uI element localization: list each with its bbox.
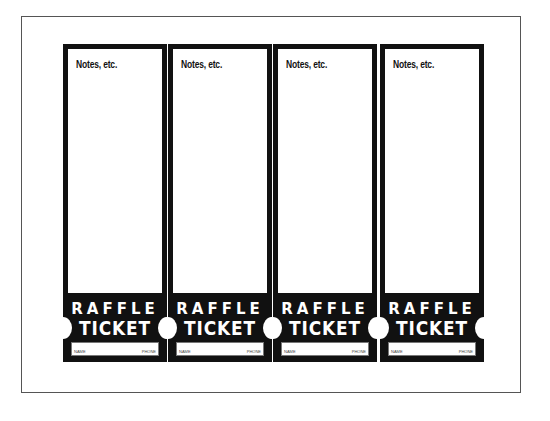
field-label-name: NAME <box>391 349 403 354</box>
field-label-phone: PHONE <box>142 349 156 354</box>
notes-box: Notes, etc. <box>273 44 377 298</box>
ticket-stub: RAFFLE TICKET NAME PHONE <box>168 297 272 362</box>
name-phone-field: NAME PHONE <box>281 342 369 356</box>
field-label-phone: PHONE <box>352 349 366 354</box>
raffle-ticket-4: Notes, etc. RAFFLE TICKET NAME PHONE <box>380 44 484 362</box>
notch-left <box>264 317 282 339</box>
notch-right <box>475 317 493 339</box>
ticket-title: TICKET <box>71 316 159 340</box>
name-phone-field: NAME PHONE <box>388 342 476 356</box>
notes-label: Notes, etc. <box>393 59 434 70</box>
ticket-stub: RAFFLE TICKET NAME PHONE <box>273 297 377 362</box>
notes-label: Notes, etc. <box>181 59 222 70</box>
field-label-phone: PHONE <box>459 349 473 354</box>
name-phone-field: NAME PHONE <box>176 342 264 356</box>
raffle-ticket-1: Notes, etc. RAFFLE TICKET NAME PHONE <box>63 44 167 362</box>
notch-left <box>54 317 72 339</box>
notes-label: Notes, etc. <box>76 59 117 70</box>
ticket-title: TICKET <box>388 316 476 340</box>
name-phone-field: NAME PHONE <box>71 342 159 356</box>
notes-box: Notes, etc. <box>168 44 272 298</box>
ticket-title: TICKET <box>281 316 369 340</box>
field-label-name: NAME <box>74 349 86 354</box>
field-label-phone: PHONE <box>247 349 261 354</box>
raffle-ticket-2: Notes, etc. RAFFLE TICKET NAME PHONE <box>168 44 272 362</box>
notes-label: Notes, etc. <box>286 59 327 70</box>
raffle-ticket-3: Notes, etc. RAFFLE TICKET NAME PHONE <box>273 44 377 362</box>
ticket-stub: RAFFLE TICKET NAME PHONE <box>380 297 484 362</box>
notch-left <box>371 317 389 339</box>
notch-left <box>159 317 177 339</box>
notes-box: Notes, etc. <box>380 44 484 298</box>
field-label-name: NAME <box>179 349 191 354</box>
ticket-title: TICKET <box>176 316 264 340</box>
notes-box: Notes, etc. <box>63 44 167 298</box>
field-label-name: NAME <box>284 349 296 354</box>
ticket-stub: RAFFLE TICKET NAME PHONE <box>63 297 167 362</box>
